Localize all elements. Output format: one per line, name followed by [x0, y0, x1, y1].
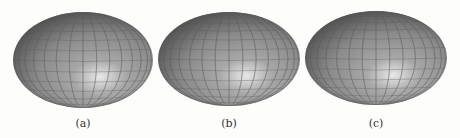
caption-b: (b): [209, 117, 249, 130]
ellipsoid-b: [158, 12, 300, 106]
caption-c: (c): [356, 117, 396, 130]
caption-a: (a): [63, 117, 103, 130]
ellipsoid-a: [13, 12, 153, 108]
ellipsoid-c: [305, 11, 447, 105]
